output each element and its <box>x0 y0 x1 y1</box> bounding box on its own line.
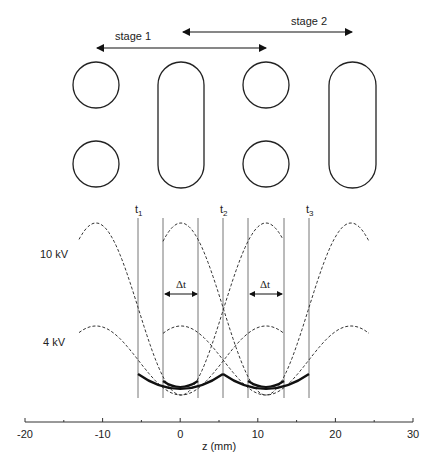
stage-arrows: stage 1stage 2 <box>97 15 352 48</box>
rod-electrode <box>158 62 204 188</box>
axis-tick-label: 20 <box>329 428 341 440</box>
rod-electrode <box>329 62 376 188</box>
stage-1-label: stage 1 <box>115 30 151 42</box>
z-axis: -20-100102030z (mm) <box>17 418 419 452</box>
delta-t-label: Δt <box>176 278 186 290</box>
axis-tick-label: -10 <box>95 428 111 440</box>
time-lines: t1t2t3ΔtΔt <box>135 203 314 398</box>
curve-labels: 10 kV4 kV <box>40 248 69 348</box>
time-marker-t2: t2 <box>220 203 228 218</box>
electrode-array <box>73 62 376 188</box>
ring-electrode <box>243 141 289 187</box>
delta-t-label: Δt <box>260 278 270 290</box>
stage-2-label: stage 2 <box>291 15 327 27</box>
axis-tick-label: -20 <box>17 428 33 440</box>
axis-tick-label: 10 <box>252 428 264 440</box>
ring-electrode <box>73 62 119 108</box>
diagram-canvas: stage 1stage 2 t1t2t3ΔtΔt 10 kV4 kV -20-… <box>0 0 432 465</box>
ring-electrode <box>73 141 119 187</box>
potential-curves <box>79 223 369 395</box>
axis-tick-label: 30 <box>407 428 419 440</box>
voltage-label: 10 kV <box>40 248 69 260</box>
voltage-label: 4 kV <box>43 336 66 348</box>
ring-electrode <box>243 62 289 108</box>
time-marker-t1: t1 <box>135 203 143 218</box>
axis-title: z (mm) <box>202 440 236 452</box>
curve-10kv-stage1 <box>79 223 283 395</box>
curve-10kv-stage2 <box>163 223 369 395</box>
axis-tick-label: 0 <box>177 428 183 440</box>
time-marker-t3: t3 <box>306 203 314 218</box>
